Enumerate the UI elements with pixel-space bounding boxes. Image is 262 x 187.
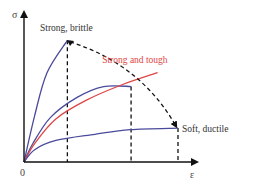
label-strong-and-tough: Strong and tough [102, 55, 168, 65]
x-axis-label: ε [190, 169, 194, 180]
label-soft-ductile: Soft, ductile [182, 124, 228, 134]
curve-intermediate [24, 86, 131, 162]
stress-strain-diagram: σ ε 0 Strong, brittleStrong and toughSof… [0, 0, 262, 187]
trend-arrow-group [67, 40, 176, 127]
series-labels: Strong, brittleStrong and toughSoft, duc… [40, 23, 228, 134]
y-axis-label: σ [12, 9, 18, 20]
curve-strong-and-tough [24, 73, 158, 162]
label-strong-brittle: Strong, brittle [40, 23, 93, 33]
origin-label: 0 [20, 167, 25, 178]
curve-soft-ductile [24, 128, 178, 162]
